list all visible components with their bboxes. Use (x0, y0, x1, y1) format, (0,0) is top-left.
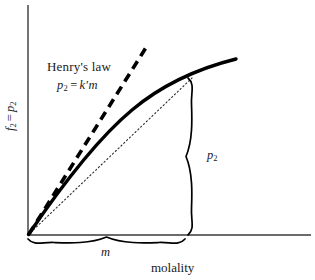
figure-canvas (0, 0, 315, 280)
henrys-law-figure: Henry's law p2=k′m f2=p2 molality p2 m (0, 0, 315, 280)
x-axis-label: molality (151, 261, 194, 274)
dotted-chord-line (28, 78, 192, 235)
p2-brace-label: p2 (207, 149, 218, 162)
m-brace-label: m (101, 246, 110, 259)
m-horizontal-brace (28, 237, 185, 243)
henrys-law-annotation-equation: p2=k′m (57, 79, 98, 92)
y-axis-label: f2=p2 (4, 90, 17, 142)
p2-vertical-brace (186, 78, 192, 235)
henrys-law-annotation-title: Henry's law (47, 60, 111, 73)
